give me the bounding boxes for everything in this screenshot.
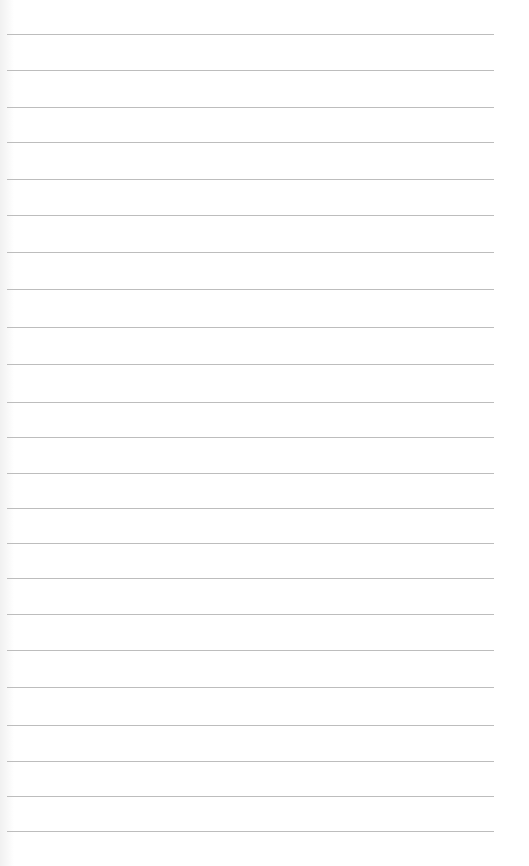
- ruled-line: [7, 142, 494, 143]
- ruled-line: [7, 289, 494, 290]
- ruled-line: [7, 508, 494, 509]
- ruled-line: [7, 34, 494, 35]
- ruled-line: [7, 796, 494, 797]
- ruled-line: [7, 179, 494, 180]
- ruled-line: [7, 252, 494, 253]
- ruled-line: [7, 473, 494, 474]
- ruled-line: [7, 761, 494, 762]
- ruled-line: [7, 402, 494, 403]
- ruled-line: [7, 543, 494, 544]
- ruled-line: [7, 364, 494, 365]
- lined-paper-sheet: [0, 0, 529, 866]
- ruled-line: [7, 687, 494, 688]
- ruled-line: [7, 578, 494, 579]
- ruled-line: [7, 650, 494, 651]
- ruled-line: [7, 614, 494, 615]
- paper-edge-shadow: [0, 0, 14, 866]
- ruled-line: [7, 215, 494, 216]
- ruled-line: [7, 107, 494, 108]
- ruled-line: [7, 725, 494, 726]
- ruled-line: [7, 437, 494, 438]
- ruled-line: [7, 831, 494, 832]
- ruled-line: [7, 327, 494, 328]
- ruled-line: [7, 70, 494, 71]
